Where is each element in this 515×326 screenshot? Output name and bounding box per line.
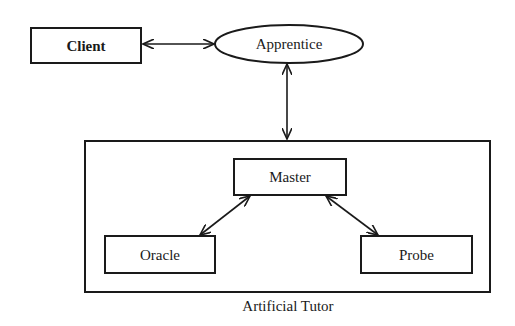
probe-node: Probe [361,236,472,273]
master-label: Master [269,169,311,185]
oracle-node: Oracle [105,236,215,273]
client-label: Client [66,38,105,54]
master-node: Master [234,159,346,195]
artificial-tutor-label: Artificial Tutor [242,298,333,314]
system-diagram: Client Apprentice Artificial Tutor Maste… [0,0,515,326]
apprentice-node: Apprentice [215,25,363,63]
client-node: Client [31,28,141,63]
apprentice-label: Apprentice [256,36,323,52]
oracle-label: Oracle [140,247,180,263]
probe-label: Probe [399,247,434,263]
